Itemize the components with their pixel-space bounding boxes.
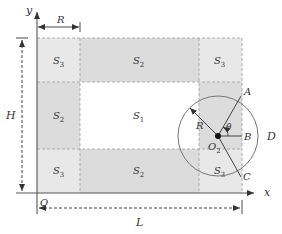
- radius-label: R: [195, 120, 204, 131]
- point-b-label: B: [243, 131, 251, 142]
- point-c-label: C: [243, 171, 251, 182]
- radius-top-label: R: [56, 14, 65, 25]
- height-label: H: [5, 109, 16, 122]
- height-dimension: [16, 38, 28, 191]
- point-a-label: A: [243, 86, 251, 97]
- x-axis-label: x: [264, 186, 271, 199]
- region-d-label: D: [266, 130, 276, 143]
- width-dimension: [39, 200, 242, 214]
- region-middle-right: [199, 82, 242, 149]
- y-axis-label: y: [25, 4, 33, 17]
- origin-label: O: [40, 197, 48, 208]
- center-point-o2: [215, 133, 221, 139]
- width-label: L: [135, 216, 143, 229]
- region-diagram: x y O R H L S3 S2 S3 S2 S1 S3 S2 S3: [0, 0, 282, 234]
- angle-label: θ: [226, 122, 232, 132]
